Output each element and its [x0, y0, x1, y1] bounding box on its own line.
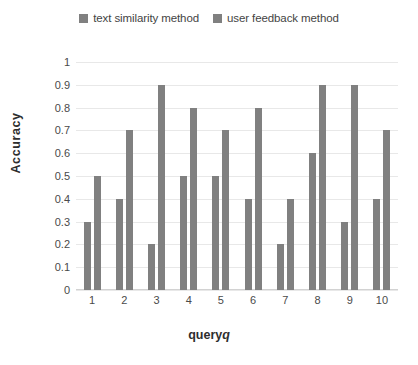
y-axis-tick-label: 0	[64, 284, 70, 296]
legend-entry-user-feedback-method: user feedback method	[213, 12, 339, 24]
y-axis-tick-label: 0.9	[55, 79, 70, 91]
x-axis-tick-label: 2	[121, 294, 127, 306]
bar	[309, 153, 316, 290]
bar	[158, 85, 165, 290]
y-axis-tick-label: 0.4	[55, 193, 70, 205]
bar	[319, 85, 326, 290]
x-axis-tick-label: 6	[250, 294, 256, 306]
gridline	[76, 290, 398, 291]
bar-group	[76, 62, 108, 290]
bars-layer	[76, 62, 398, 290]
bar-group	[140, 62, 172, 290]
x-axis-tick-label: 10	[376, 294, 388, 306]
y-axis-tick-label: 0.7	[55, 124, 70, 136]
x-axis-tick-label: 3	[153, 294, 159, 306]
bar	[351, 85, 358, 290]
y-axis-tick-label: 0.3	[55, 216, 70, 228]
bar	[126, 130, 133, 290]
bar	[383, 130, 390, 290]
bar	[222, 130, 229, 290]
bar-group	[334, 62, 366, 290]
x-axis-title-variable: q	[222, 328, 230, 342]
bar	[277, 244, 284, 290]
legend-label: user feedback method	[227, 12, 339, 24]
bar-group	[108, 62, 140, 290]
bar	[212, 176, 219, 290]
bar	[341, 222, 348, 290]
bar-group	[205, 62, 237, 290]
bar	[180, 176, 187, 290]
bar	[190, 108, 197, 290]
x-axis-title-text: query	[188, 328, 222, 342]
x-axis-tick-label: 8	[314, 294, 320, 306]
x-axis-tick-labels: 12345678910	[76, 294, 398, 310]
chart-legend: text similarity method user feedback met…	[0, 12, 418, 24]
y-axis-tick-label: 0.2	[55, 238, 70, 250]
y-axis-tick-label: 0.1	[55, 261, 70, 273]
x-axis-tick-label: 1	[89, 294, 95, 306]
x-axis-tick-label: 4	[186, 294, 192, 306]
plot-area	[76, 62, 398, 290]
y-axis-tick-label: 1	[64, 56, 70, 68]
y-axis-tick-label: 0.5	[55, 170, 70, 182]
x-axis-tick-label: 7	[282, 294, 288, 306]
x-axis-tick-label: 9	[347, 294, 353, 306]
bar-group	[173, 62, 205, 290]
y-axis-tick-labels: 10.90.80.70.60.50.40.30.20.10	[34, 62, 70, 290]
x-axis-title: queryq	[0, 328, 418, 342]
legend-entry-text-similarity-method: text similarity method	[79, 12, 199, 24]
bar	[84, 222, 91, 290]
bar-group	[237, 62, 269, 290]
bar	[94, 176, 101, 290]
bar	[255, 108, 262, 290]
legend-label: text similarity method	[93, 12, 199, 24]
y-axis-tick-label: 0.8	[55, 102, 70, 114]
bar	[287, 199, 294, 290]
legend-swatch-icon	[213, 14, 222, 23]
bar	[245, 199, 252, 290]
bar	[373, 199, 380, 290]
bar	[116, 199, 123, 290]
bar-group	[269, 62, 301, 290]
x-axis-tick-label: 5	[218, 294, 224, 306]
legend-swatch-icon	[79, 14, 88, 23]
bar-group	[366, 62, 398, 290]
y-axis-tick-label: 0.6	[55, 147, 70, 159]
y-axis-title: Accuracy	[9, 93, 23, 193]
accuracy-bar-chart: text similarity method user feedback met…	[0, 0, 418, 365]
bar	[148, 244, 155, 290]
bar-group	[301, 62, 333, 290]
